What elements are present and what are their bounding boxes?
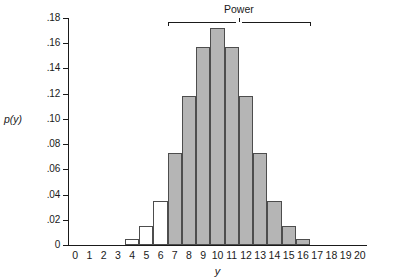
x-tick-label: 20	[350, 250, 370, 261]
histogram-bar	[296, 239, 310, 245]
y-tick-label: .14	[24, 63, 60, 73]
x-axis-line	[68, 245, 367, 246]
histogram-bar	[196, 47, 210, 245]
y-tick-label: .12	[24, 89, 60, 99]
bracket-right-tip	[310, 22, 311, 26]
histogram-bar	[239, 96, 253, 245]
y-tick-label: .06	[24, 164, 60, 174]
histogram-bar	[225, 47, 239, 245]
bar-series	[68, 18, 367, 245]
bracket-left-arm	[168, 22, 236, 23]
y-tick-label: 0	[24, 240, 60, 250]
histogram-bar	[153, 201, 167, 245]
y-tick-mark	[63, 245, 68, 246]
histogram-bar	[125, 239, 139, 245]
histogram-bar	[168, 153, 182, 245]
y-tick-label: .18	[24, 13, 60, 23]
y-tick-label: .02	[24, 215, 60, 225]
y-tick-label: .08	[24, 139, 60, 149]
bracket-left-tip	[168, 22, 169, 26]
bracket-center-tip	[239, 18, 240, 22]
bracket-right-arm	[242, 22, 310, 23]
y-tick-label: .04	[24, 190, 60, 200]
power-label: Power	[189, 3, 289, 15]
histogram-bar	[282, 226, 296, 245]
histogram-bar	[182, 96, 196, 245]
histogram-bar	[253, 153, 267, 245]
histogram-bar	[139, 226, 153, 245]
x-axis-label: y	[208, 265, 228, 277]
y-axis-label: p(y)	[4, 113, 22, 125]
y-tick-label: .10	[24, 114, 60, 124]
histogram-chart: 0.02.04.06.08.10.12.14.16.18 01234567891…	[0, 0, 419, 279]
histogram-bar	[267, 201, 281, 245]
y-tick-label: .16	[24, 38, 60, 48]
histogram-bar	[210, 28, 224, 245]
